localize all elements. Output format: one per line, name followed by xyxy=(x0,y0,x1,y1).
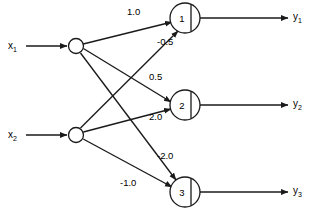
input-label-x1: x1 xyxy=(8,40,17,53)
weight-label-x2-n1: -0.5 xyxy=(157,36,173,47)
neuron-node-3: 3 xyxy=(170,177,200,207)
weight-label-x1-n2: 0.5 xyxy=(149,71,162,82)
neuron-node-1: 1 xyxy=(170,3,200,33)
weight-label-x1-n3: -2.0 xyxy=(157,150,173,161)
neuron-index-3: 3 xyxy=(179,187,184,198)
output-label-y1-subscript: 1 xyxy=(298,17,302,24)
input-label-x1-subscript: 1 xyxy=(13,46,17,53)
weight-label-x2-n3: -1.0 xyxy=(120,177,136,188)
input-label-x2: x2 xyxy=(8,129,17,142)
output-label-y2-subscript: 2 xyxy=(298,104,302,111)
input-label-x2-subscript: 2 xyxy=(13,135,17,142)
neural-network-diagram: 1 2 3 x1 x2 y1 y2 y3 1.0 -0.5 0.5 2.0 -2… xyxy=(0,0,314,214)
neuron-circle-3 xyxy=(170,177,200,207)
neuron-index-1: 1 xyxy=(179,13,184,24)
neuron-circle-1 xyxy=(170,3,200,33)
network-canvas: 1 2 3 xyxy=(0,0,314,214)
output-label-y3: y3 xyxy=(293,185,302,198)
neuron-index-2: 2 xyxy=(179,100,184,111)
neuron-circle-2 xyxy=(170,90,200,120)
output-label-y1: y1 xyxy=(293,11,302,24)
input-node-x1 xyxy=(69,39,84,54)
weight-label-x2-n2: 2.0 xyxy=(149,111,162,122)
neuron-node-2: 2 xyxy=(170,90,200,120)
input-arrow-group xyxy=(26,46,67,135)
output-line-group xyxy=(200,18,288,192)
output-label-y3-subscript: 3 xyxy=(298,191,302,198)
input-node-x2 xyxy=(69,128,84,143)
output-label-y2: y2 xyxy=(293,98,302,111)
weight-label-x1-n1: 1.0 xyxy=(127,6,140,17)
